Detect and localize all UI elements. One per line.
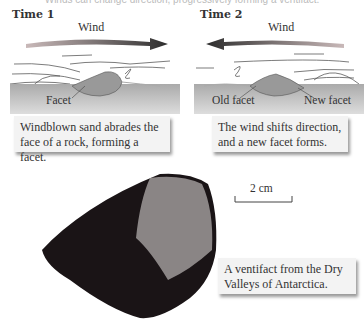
panel1-title: Time 1	[12, 8, 55, 21]
panel1-diagram	[10, 34, 180, 114]
wind-arrow-left-icon	[206, 38, 344, 50]
panel1-caption: Windblown sand abrades the face of a roc…	[14, 116, 170, 152]
panel1-facet-label: Facet	[46, 94, 71, 106]
photo-caption: A ventifact from the Dry Valleys of Anta…	[218, 258, 356, 294]
top-caption-fragment: Winds can change direction, progressivel…	[0, 0, 364, 5]
panel2-caption: The wind shifts direction, and a new fac…	[212, 116, 348, 152]
panel2-title: Time 2	[200, 8, 243, 21]
panel2-wind-label: Wind	[268, 20, 294, 35]
panel2-old-facet-label: Old facet	[212, 94, 254, 106]
wind-arrow-right-icon	[26, 38, 168, 50]
ventifact-photo	[40, 170, 220, 320]
scale-bar-label: 2 cm	[250, 182, 273, 194]
panel2-new-facet-label: New facet	[304, 94, 351, 106]
scale-bar	[234, 196, 294, 204]
panel1-wind-label: Wind	[78, 20, 104, 35]
